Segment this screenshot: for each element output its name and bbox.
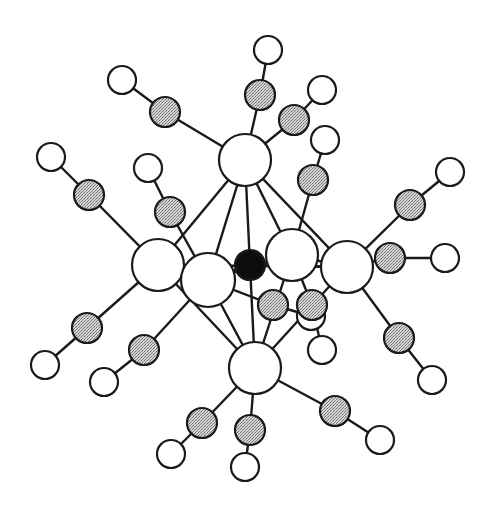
carbon-atom [187,408,217,438]
carbon-atom [279,105,309,135]
oxygen-atom [254,36,282,64]
carbon-atom [297,290,327,320]
metal-atom [321,241,373,293]
metal-atom [181,253,235,307]
oxygen-atom [37,143,65,171]
carbon-atom [150,97,180,127]
oxygen-atom [311,126,339,154]
central-atom [235,250,265,280]
oxygen-atom [90,368,118,396]
carbon-atom [320,396,350,426]
carbon-atom [235,415,265,445]
oxygen-atom [436,158,464,186]
oxygen-atom [431,244,459,272]
carbon-atom [298,165,328,195]
oxygen-atom [366,426,394,454]
oxygen-atom [308,336,336,364]
atoms-front-layer [132,134,373,394]
carbon-atom [375,243,405,273]
carbon-atom [72,313,102,343]
carbon-atom [74,180,104,210]
oxygen-atom [108,66,136,94]
carbon-atom [395,190,425,220]
molecular-diagram [0,0,491,514]
carbon-atom [155,197,185,227]
carbon-atom [258,290,288,320]
metal-atom [266,229,318,281]
metal-atom [229,342,281,394]
oxygen-atom [418,366,446,394]
metal-atom [132,239,184,291]
cluster-structure-figure [0,0,491,514]
metal-atom [219,134,271,186]
oxygen-atom [157,440,185,468]
oxygen-atom [134,154,162,182]
carbon-atom [245,80,275,110]
oxygen-atom [231,453,259,481]
carbon-atom [384,323,414,353]
carbon-atom [129,335,159,365]
oxygen-atom [308,76,336,104]
oxygen-atom [31,351,59,379]
